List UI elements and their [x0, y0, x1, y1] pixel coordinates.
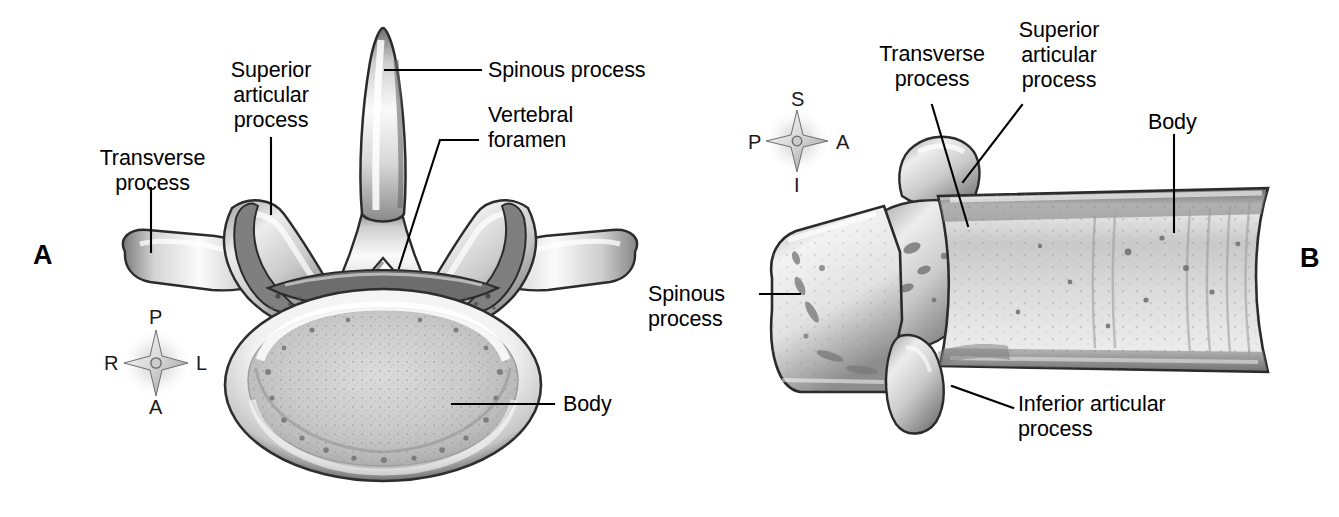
compass-a-star	[120, 327, 192, 399]
label-b-superior-articular-process: Superior articular process	[1000, 18, 1118, 93]
compass-a-bottom-letter: A	[149, 396, 162, 419]
compass-a-right-letter: L	[196, 352, 207, 375]
compass-b-top-letter: S	[791, 88, 804, 111]
label-a-body: Body	[563, 392, 612, 417]
panel-letter-a: A	[33, 240, 53, 271]
panel-b-vertebra-lateral	[760, 137, 1280, 434]
panel-letter-b: B	[1300, 243, 1320, 274]
leader-b-inferior-articular-process	[952, 386, 1013, 408]
compass-a-left-letter: R	[104, 352, 118, 375]
anatomy-figure: Transverse process Superior articular pr…	[0, 0, 1339, 517]
label-a-vertebral-foramen: Vertebral foramen	[488, 103, 573, 153]
compass-b-right-letter: A	[836, 131, 849, 154]
compass-b-bottom-letter: I	[794, 174, 800, 197]
leader-b-superior-articular-process	[963, 105, 1022, 182]
label-a-transverse-process: Transverse process	[95, 146, 210, 196]
leader-b-transverse-process	[932, 105, 968, 226]
label-b-inferior-articular-process: Inferior articular process	[1018, 392, 1166, 442]
panel-a-vertebra-superior	[123, 28, 637, 481]
leader-a-vertebral-foramen	[399, 140, 478, 268]
compass-a-top-letter: P	[149, 306, 162, 329]
label-b-body: Body	[1148, 110, 1197, 135]
compass-b-star	[763, 107, 831, 175]
label-b-spinous-process: Spinous process	[648, 282, 725, 332]
compass-b-left-letter: P	[748, 131, 761, 154]
label-a-spinous-process: Spinous process	[488, 58, 645, 83]
label-a-superior-articular-process: Superior articular process	[212, 58, 330, 133]
label-b-transverse-process: Transverse process	[872, 42, 992, 92]
